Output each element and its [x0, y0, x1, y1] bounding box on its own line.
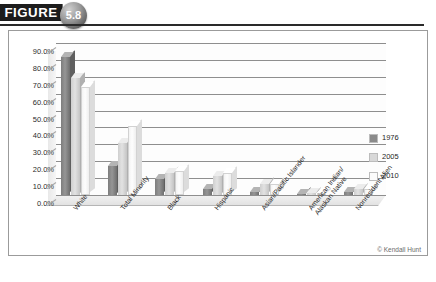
- legend-swatch: [369, 134, 378, 143]
- bar-face: [354, 189, 363, 195]
- copyright-credit: © Kendall Hunt: [377, 246, 421, 253]
- bar-2005-american-indian-alaskan-native: [307, 193, 316, 195]
- bar-1976-nonresident-alien: [344, 192, 353, 195]
- bar-face: [344, 192, 353, 195]
- bar-group: [297, 43, 326, 195]
- bar-1976-white: [61, 57, 70, 195]
- bar-face: [250, 192, 259, 195]
- bar-group: [155, 43, 184, 195]
- x-axis-category-labels: WhiteTotal MinorityBlackHispanicAsian/Pa…: [56, 207, 396, 277]
- bar-1976-black: [155, 179, 164, 195]
- bar-face: [108, 166, 117, 195]
- bar-face: [213, 176, 222, 195]
- legend-swatch: [369, 172, 378, 181]
- legend-item-2010[interactable]: 2010: [369, 171, 429, 180]
- bar-2010-white: [81, 87, 90, 195]
- bar-group: [61, 43, 90, 195]
- bar-group: [250, 43, 279, 195]
- bar-2005-black: [165, 173, 174, 195]
- bar-1976-american-indian-alaskan-native: [297, 194, 306, 195]
- bar-face: [118, 143, 127, 195]
- bar-1976-asian-pacific-islander: [250, 192, 259, 195]
- bar-face: [155, 179, 164, 195]
- bar-1976-total-minority: [108, 166, 117, 195]
- bar-face: [203, 189, 212, 195]
- legend-label: 1976: [382, 133, 399, 142]
- figure-banner: FIGURE 5.8: [0, 2, 436, 28]
- legend-label: 2005: [382, 152, 399, 161]
- bar-group: [203, 43, 232, 195]
- bar-face: [165, 173, 174, 195]
- bar-face: [71, 78, 80, 195]
- bar-face: [297, 194, 306, 195]
- figure-tag-label: FIGURE: [0, 4, 63, 21]
- legend-item-2005[interactable]: 2005: [369, 152, 429, 161]
- bar-face: [81, 87, 90, 195]
- bar-face: [307, 193, 316, 195]
- bar-2010-black: [175, 171, 184, 195]
- bar-2005-white: [71, 78, 80, 195]
- bar-2005-total-minority: [118, 143, 127, 195]
- legend-swatch: [369, 153, 378, 162]
- y-axis-tick-label: 40.0%: [33, 131, 54, 140]
- bar-face: [260, 184, 269, 195]
- bar-2005-asian-pacific-islander: [260, 184, 269, 195]
- legend-label: 2010: [382, 171, 399, 180]
- bar-face: [61, 57, 70, 195]
- bar-2005-nonresident-alien: [354, 189, 363, 195]
- legend-item-1976[interactable]: 1976: [369, 133, 429, 142]
- bar-side: [90, 81, 95, 193]
- bar-2005-hispanic: [213, 176, 222, 195]
- bar-group: [108, 43, 137, 195]
- chart-frame: 0.0%10.0%20.0%30.0%40.0%50.0%60.0%70.0%8…: [8, 30, 428, 256]
- y-axis-tick-label: 0.0%: [37, 199, 54, 208]
- bar-1976-hispanic: [203, 189, 212, 195]
- bar-face: [175, 171, 184, 195]
- figure-divider-rule: [0, 24, 424, 26]
